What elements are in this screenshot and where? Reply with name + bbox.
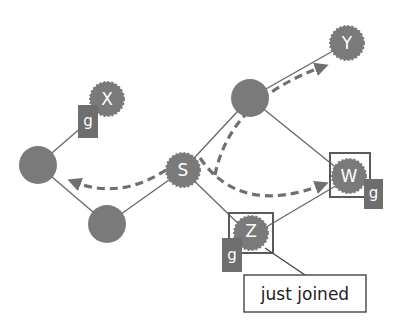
tag-x-label: g: [83, 112, 93, 130]
node-z-label: Z: [245, 221, 257, 241]
node-left: [19, 146, 57, 184]
tag-z: g: [222, 238, 242, 272]
node-bottom: [88, 205, 126, 243]
network-diagram: X S Y W Z g g g just joined: [0, 0, 404, 331]
tag-x: g: [78, 105, 98, 138]
node-s-label: S: [178, 160, 189, 180]
node-y-label: Y: [341, 33, 353, 53]
arrow-s-to-w: [200, 158, 322, 196]
node-w: W: [332, 159, 366, 193]
node-upper: [231, 79, 269, 117]
node-x-label: X: [101, 89, 113, 109]
tag-w: g: [364, 179, 383, 209]
tag-w-label: g: [369, 184, 379, 202]
node-w-label: W: [341, 166, 358, 186]
arrow-s-to-y: [215, 67, 322, 175]
callout-pointer: [265, 248, 305, 275]
node-s: S: [166, 153, 200, 187]
edge-upper-w: [250, 98, 349, 178]
callout-text: just joined: [260, 284, 349, 304]
node-y: Y: [330, 26, 364, 60]
edges: [38, 43, 349, 236]
callout-just-joined: just joined: [244, 275, 366, 312]
tag-z-label: g: [227, 246, 237, 264]
arrow-s-to-left: [74, 170, 166, 189]
